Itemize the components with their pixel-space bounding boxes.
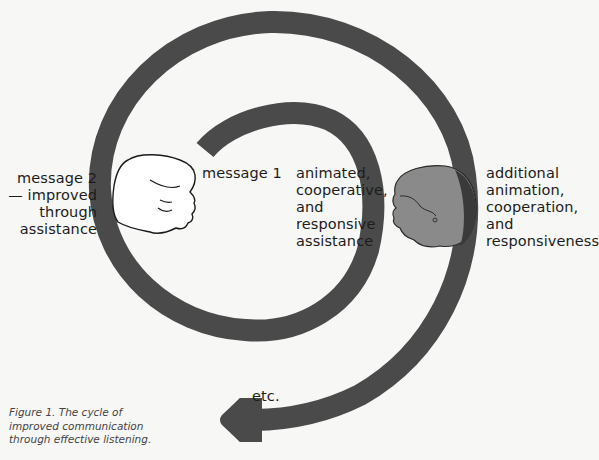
additional-line: and <box>486 216 599 233</box>
additional-line: responsiveness <box>486 233 599 250</box>
additional-line: additional <box>486 165 599 182</box>
additional-line: cooperation, <box>486 199 599 216</box>
message-1-text: message 1 <box>202 165 282 182</box>
message-2-line: — improved <box>6 187 97 204</box>
etc-label: etc. <box>252 388 280 405</box>
speaker-head-outline-icon <box>113 155 195 233</box>
assistance-label: animated, cooperative, and responsive as… <box>296 165 388 250</box>
additional-responsiveness-label: additional animation, cooperation, and r… <box>486 165 599 250</box>
additional-line: animation, <box>486 182 599 199</box>
caption-line: Figure 1. The cycle of <box>9 406 151 420</box>
assistance-line: assistance <box>296 233 388 250</box>
message-2-label: message 2 — improved through assistance <box>6 170 97 238</box>
etc-text: etc. <box>252 388 280 405</box>
assistance-line: responsive <box>296 216 388 233</box>
message-2-line: through <box>6 204 97 221</box>
message-1-label: message 1 <box>202 165 282 182</box>
message-2-line: message 2 <box>6 170 97 187</box>
message-2-line: assistance <box>6 221 97 238</box>
assistance-line: cooperative, <box>296 182 388 199</box>
assistance-line: and <box>296 199 388 216</box>
caption-line: improved communication <box>9 420 151 434</box>
assistance-line: animated, <box>296 165 388 182</box>
figure-caption: Figure 1. The cycle of improved communic… <box>9 406 151 447</box>
listener-head-shaded-icon <box>393 166 476 247</box>
caption-line: through effective listening. <box>9 433 151 447</box>
